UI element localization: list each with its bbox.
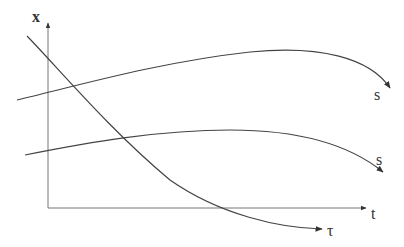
y-axis-label: x — [32, 8, 40, 25]
upper-s-curve — [17, 50, 390, 100]
diagram-svg: x t s s τ — [0, 0, 404, 247]
lower-s-curve — [25, 130, 383, 172]
upper-s-label: s — [374, 86, 380, 103]
x-axis-label: t — [371, 205, 376, 222]
diagram-canvas: x t s s τ — [0, 0, 404, 247]
lower-s-label: s — [376, 151, 382, 168]
tau-label: τ — [327, 222, 334, 239]
